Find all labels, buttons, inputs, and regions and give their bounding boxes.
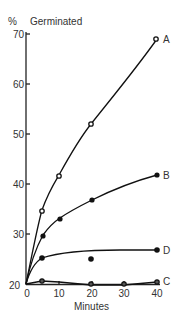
x-tick-label: 30: [118, 288, 130, 299]
point-a: [154, 37, 158, 41]
y-tick-label: 70: [13, 29, 25, 40]
x-tick-label: 0: [24, 288, 30, 299]
curve-d: [26, 250, 157, 284]
series-label-b: B: [163, 170, 170, 181]
curves: [26, 39, 157, 285]
x-tick-label: 10: [53, 288, 65, 299]
y-tick-label: 30: [13, 229, 25, 240]
x-tick-label: 20: [86, 288, 98, 299]
curve-a: [26, 39, 157, 284]
series-label-c: C: [163, 276, 170, 287]
series-label-a: A: [163, 34, 170, 45]
markers-a: [40, 37, 158, 213]
germination-chart: % Germinated Minutes 70 60 50 40 30 20 0…: [0, 0, 181, 330]
point-a: [40, 209, 44, 213]
point-c: [89, 282, 93, 286]
point-d: [154, 247, 160, 253]
y-tick-label: 50: [13, 129, 25, 140]
point-d: [88, 256, 94, 262]
y-axis-title: Germinated: [30, 16, 82, 27]
x-axis-title: Minutes: [74, 301, 109, 312]
point-c: [40, 279, 44, 283]
series-labels: A B D C: [163, 34, 170, 287]
point-c: [122, 282, 126, 286]
point-b: [57, 216, 62, 221]
x-tick-label: 40: [151, 288, 163, 299]
point-b: [40, 233, 45, 238]
point-d: [39, 255, 45, 261]
point-b: [89, 197, 94, 202]
point-a: [57, 174, 61, 178]
y-tick-label: 20: [9, 280, 21, 291]
series-label-d: D: [163, 245, 170, 256]
y-axis-unit: %: [8, 16, 17, 27]
y-tick-label: 40: [13, 179, 25, 190]
y-tick-label: 60: [13, 79, 25, 90]
curve-b: [26, 175, 157, 284]
axes: [26, 32, 160, 285]
x-tick-labels: 0 10 20 30 40: [24, 288, 163, 299]
point-a: [89, 122, 93, 126]
markers-b: [40, 172, 159, 238]
y-tick-labels: 70 60 50 40 30 20: [9, 29, 25, 291]
point-c: [155, 280, 159, 284]
point-b: [154, 172, 159, 177]
